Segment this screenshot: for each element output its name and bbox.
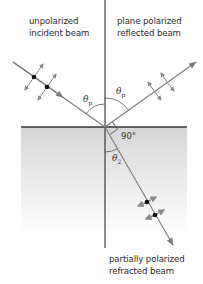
incident-label-line1: unpolarized xyxy=(29,15,89,27)
polarization-diagram xyxy=(0,0,203,284)
incident-beam-label: unpolarized incident beam xyxy=(29,15,89,39)
refracted-label-line1: partially polarized xyxy=(109,253,185,265)
reflected-angle-label: θp xyxy=(116,86,125,98)
refracting-medium xyxy=(21,127,187,235)
incident-label-line2: incident beam xyxy=(29,27,89,39)
refracted-label-line2: refracted beam xyxy=(109,265,185,277)
refracted-beam-label: partially polarized refracted beam xyxy=(109,253,185,277)
reflected-beam-label: plane polarized reflected beam xyxy=(117,15,182,39)
reflected-label-line1: plane polarized xyxy=(117,15,182,27)
reflected-label-line2: reflected beam xyxy=(117,27,182,39)
refracted-angle-label: θ2 xyxy=(112,153,121,165)
right-angle-label: 90° xyxy=(121,131,136,141)
reflected-angle-arc xyxy=(105,98,129,110)
incident-angle-label: θp xyxy=(83,94,92,106)
